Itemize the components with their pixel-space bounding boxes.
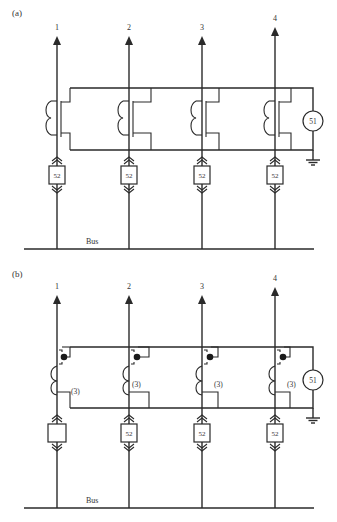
ct-pair-icon <box>46 88 70 150</box>
ct-with-dot-icon: (3) <box>51 347 80 408</box>
svg-text:52: 52 <box>199 430 207 438</box>
feeder-a-4: 4 52 <box>264 14 291 249</box>
svg-text:52: 52 <box>126 172 134 180</box>
svg-text:52: 52 <box>126 430 134 438</box>
relay-51-symbol: 51 <box>303 370 323 390</box>
ct-pair-icon <box>118 88 151 150</box>
diagram-canvas: (a) 51 Bus 1 <box>0 0 337 522</box>
arrow-up-icon <box>198 36 206 45</box>
ground-icon <box>306 418 320 423</box>
ct-with-dot-icon: (3) <box>123 347 149 408</box>
arrow-up-icon <box>271 287 279 296</box>
svg-text:52: 52 <box>199 172 207 180</box>
feeder-label: 2 <box>127 23 131 32</box>
arrow-up-icon <box>198 295 206 304</box>
arrow-up-icon <box>271 27 279 36</box>
ct-ratio-note: (3) <box>214 380 223 389</box>
panel-a-label: (a) <box>12 8 22 18</box>
feeder-b-4: 4 (3) 52 <box>267 274 296 508</box>
feeder-b-2: 2 (3) 52 <box>121 282 149 508</box>
ct-secondary-top-wire <box>70 347 313 370</box>
ct-secondary-bottom-wire <box>70 390 313 408</box>
feeder-label: 4 <box>273 274 277 283</box>
feeder-label: 1 <box>55 23 59 32</box>
ct-secondary-bottom-wire <box>70 131 313 150</box>
feeder-label: 3 <box>200 282 204 291</box>
ct-with-dot-icon: (3) <box>269 347 296 408</box>
svg-text:52: 52 <box>272 172 280 180</box>
arrow-up-icon <box>125 295 133 304</box>
feeder-b-1: 1 (3) <box>48 282 80 508</box>
feeder-label: 3 <box>200 23 204 32</box>
arrow-up-icon <box>53 36 61 45</box>
feeder-a-1: 1 52 <box>46 23 70 249</box>
relay-51-label: 51 <box>309 376 317 385</box>
panel-a: (a) 51 Bus 1 <box>12 8 323 249</box>
relay-51-label: 51 <box>309 117 317 126</box>
ct-ratio-note: (3) <box>132 380 141 389</box>
svg-text:52: 52 <box>54 172 62 180</box>
feeder-label: 2 <box>127 282 131 291</box>
feeder-label: 1 <box>55 282 59 291</box>
arrow-up-icon <box>125 36 133 45</box>
relay-51-symbol: 51 <box>303 111 323 131</box>
panel-b: (b) 51 Bus 1 (3) <box>12 269 323 508</box>
feeder-a-2: 2 52 <box>118 23 151 249</box>
svg-text:52: 52 <box>272 430 280 438</box>
arrow-up-icon <box>53 295 61 304</box>
ct-pair-icon <box>264 88 291 150</box>
feeder-a-3: 3 52 <box>191 23 219 249</box>
bus-label: Bus <box>86 496 98 505</box>
bus-label: Bus <box>86 237 98 246</box>
ct-pair-icon <box>191 88 219 150</box>
panel-b-label: (b) <box>12 269 23 279</box>
ct-ratio-note: (3) <box>287 380 296 389</box>
ct-with-dot-icon: (3) <box>196 347 223 408</box>
ct-ratio-note: (3) <box>71 387 80 396</box>
feeder-label: 4 <box>273 14 277 23</box>
ground-icon <box>306 160 320 165</box>
feeder-b-3: 3 (3) 52 <box>194 282 223 508</box>
